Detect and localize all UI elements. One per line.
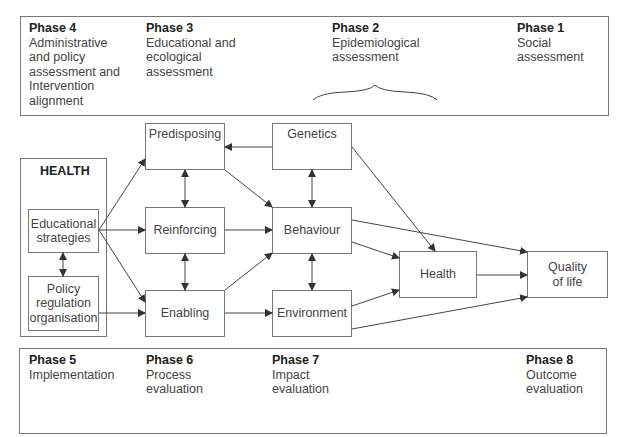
phase-8: Phase 8 Outcome evaluation	[526, 353, 583, 397]
phase-title: Phase 8	[526, 353, 583, 368]
phase-5: Phase 5 Implementation	[29, 353, 114, 382]
phase-6: Phase 6 Process evaluation	[146, 353, 203, 397]
brace-icon	[313, 85, 437, 100]
phase-title: Phase 5	[29, 353, 114, 368]
phase-title: Phase 7	[272, 353, 329, 368]
phase-title: Phase 6	[146, 353, 203, 368]
phase-7: Phase 7 Impact evaluation	[272, 353, 329, 397]
